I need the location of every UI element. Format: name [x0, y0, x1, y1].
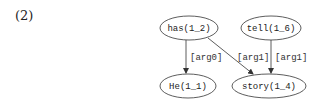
- node-label-he: He(1_1): [169, 82, 207, 92]
- node-story: story(1_4): [232, 74, 306, 98]
- dependency-graph: has(1_2) tell(1_6) He(1_1) story(1_4) [a…: [0, 0, 321, 105]
- node-label-has: has(1_2): [167, 24, 210, 34]
- edge-tell-story: [arg1]: [271, 40, 307, 73]
- node-tell: tell(1_6): [241, 16, 301, 40]
- node-has: has(1_2): [160, 16, 218, 40]
- node-label-tell: tell(1_6): [247, 24, 296, 34]
- edge-label-arg1-tell: [arg1]: [275, 53, 307, 63]
- node-label-story: story(1_4): [242, 82, 296, 92]
- edge-label-arg0: [arg0]: [190, 53, 222, 63]
- node-he: He(1_1): [160, 74, 216, 98]
- edge-label-arg1: [arg1]: [237, 53, 269, 63]
